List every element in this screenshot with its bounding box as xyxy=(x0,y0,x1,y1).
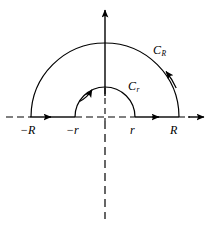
curve-label-CR-base: C xyxy=(153,43,161,57)
axis-label-negative-R: −R xyxy=(20,124,35,136)
axis-label-negative-r: −r xyxy=(66,124,79,136)
contour-diagram: −R −r r R CR Cr xyxy=(0,0,210,225)
axis-label-positive-R: R xyxy=(170,124,177,136)
curve-label-Cr-subscript: r xyxy=(137,85,140,94)
axis-label-positive-r: r xyxy=(130,124,135,136)
curve-label-CR: CR xyxy=(153,44,166,56)
curve-label-Cr-base: C xyxy=(128,79,136,93)
contour-svg xyxy=(0,0,210,225)
outer-arc-arrowhead xyxy=(166,72,176,89)
curve-label-CR-subscript: R xyxy=(162,49,167,58)
curve-label-Cr: Cr xyxy=(128,80,139,92)
